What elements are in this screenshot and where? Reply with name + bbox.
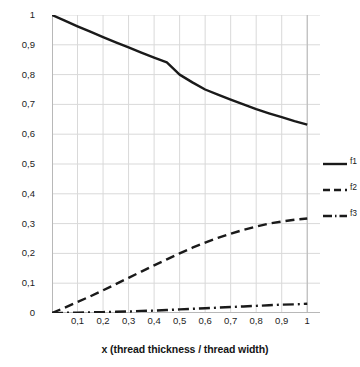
- chart-legend: f1f2f3: [323, 152, 360, 230]
- x-tick-label: 1: [287, 316, 327, 326]
- legend-item-f3[interactable]: f3: [323, 204, 360, 230]
- legend-item-f2[interactable]: f2: [323, 178, 360, 204]
- y-tick-label: 0,7: [0, 99, 35, 109]
- y-tick-label: 0,9: [0, 40, 35, 50]
- y-tick-label: 0,2: [0, 248, 35, 258]
- legend-label: f2: [350, 182, 357, 192]
- legend-item-f1[interactable]: f1: [323, 152, 360, 178]
- y-tick-label: 0: [0, 308, 35, 318]
- x-axis-title: x (thread thickness / thread width): [40, 343, 330, 355]
- y-tick-label: 0,4: [0, 189, 35, 199]
- legend-line-icon-f2: [323, 188, 347, 191]
- y-tick-label: 0,5: [0, 159, 35, 169]
- legend-label: f3: [350, 208, 357, 218]
- chart-figure: Proportion of areas in woven fabrics 00,…: [0, 0, 360, 367]
- y-tick-label: 0,8: [0, 70, 35, 80]
- legend-line-icon-f1: [323, 162, 347, 165]
- y-tick-label: 0,6: [0, 129, 35, 139]
- legend-label: f1: [350, 156, 357, 166]
- y-tick-label: 0,1: [0, 278, 35, 288]
- y-tick-label: 0,3: [0, 219, 35, 229]
- legend-line-icon-f3: [323, 214, 347, 217]
- plot-area: [52, 15, 320, 313]
- plot-svg: [52, 15, 320, 313]
- y-tick-label: 1: [0, 10, 35, 20]
- gridlines: [52, 15, 320, 313]
